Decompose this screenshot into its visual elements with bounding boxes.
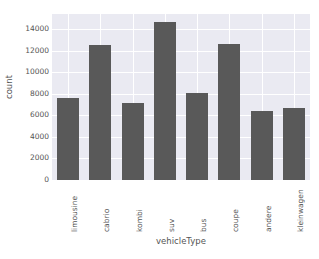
bar-cabrio xyxy=(89,45,111,180)
x-tick-label-kombi: kombi xyxy=(136,209,144,232)
y-tick-label: 14000 xyxy=(25,25,49,33)
y-tick-label: 0 xyxy=(44,176,49,184)
y-tick-label: 10000 xyxy=(25,68,49,76)
x-tick-label-andere: andere xyxy=(265,206,273,232)
y-tick-label: 2000 xyxy=(30,154,49,162)
y-axis-label: count xyxy=(4,57,14,117)
bar-series xyxy=(52,14,310,180)
bar-chart-figure: 02000400060008000100001200014000 count l… xyxy=(0,0,319,259)
bar-limousine xyxy=(57,98,79,180)
plot-area xyxy=(52,14,310,180)
bar-kombi xyxy=(122,103,144,180)
x-tick-label-kleinwagen: kleinwagen xyxy=(297,189,305,232)
x-axis-label: vehicleType xyxy=(52,236,310,246)
y-tick-label: 4000 xyxy=(30,133,49,141)
y-tick-label: 8000 xyxy=(30,90,49,98)
y-tick-label: 6000 xyxy=(30,111,49,119)
bar-bus xyxy=(186,93,208,180)
x-tick-label-bus: bus xyxy=(200,219,208,232)
x-tick-label-cabrio: cabrio xyxy=(103,209,111,232)
bar-andere xyxy=(251,111,273,180)
x-tick-label-limousine: limousine xyxy=(71,196,79,232)
x-tick-label-coupe: coupe xyxy=(232,209,240,232)
y-tick-label: 12000 xyxy=(25,47,49,55)
x-axis-tick-labels: limousinecabriokombisuvbuscoupeanderekle… xyxy=(52,182,310,234)
bar-suv xyxy=(154,22,176,180)
bar-coupe xyxy=(218,44,240,180)
x-tick-label-suv: suv xyxy=(168,219,176,232)
bar-kleinwagen xyxy=(283,108,305,180)
